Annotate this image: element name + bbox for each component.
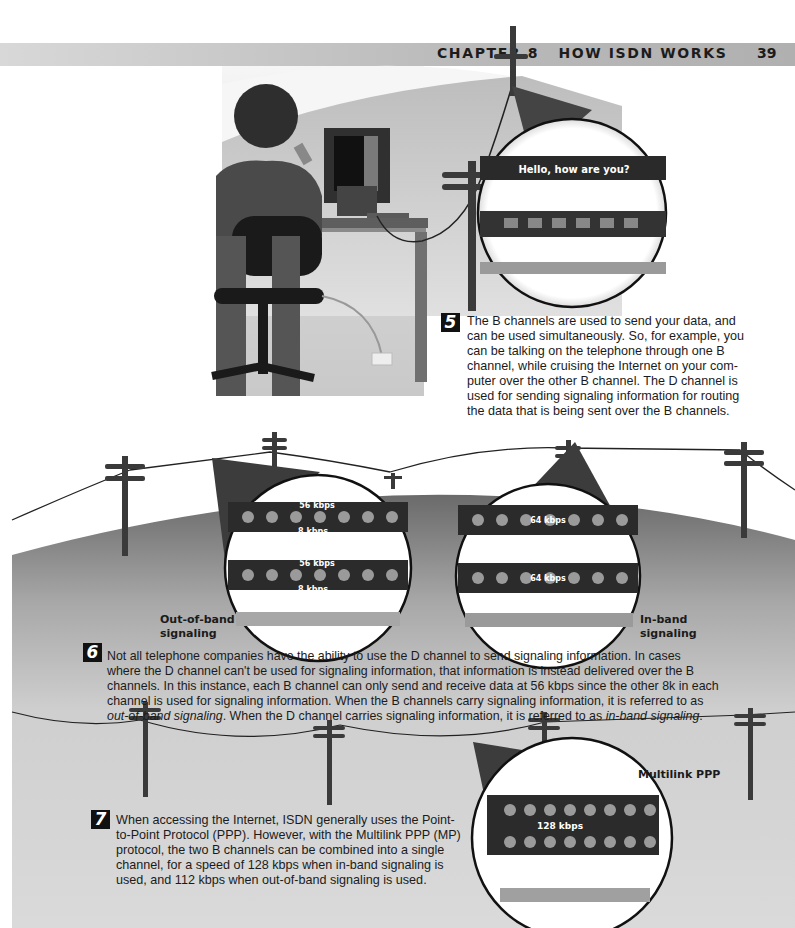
step-5-badge: 5 <box>441 313 460 332</box>
step-7-badge: 7 <box>91 810 110 829</box>
svg-text:8 kbps: 8 kbps <box>298 585 328 594</box>
page-number: 39 <box>757 45 776 61</box>
svg-text:64 kbps: 64 kbps <box>530 574 566 583</box>
step-7-text: When accessing the Internet, ISDN genera… <box>116 813 461 888</box>
desk-scene-illustration: Hello, how are you? <box>222 66 622 316</box>
svg-text:56 kbps: 56 kbps <box>299 559 335 568</box>
svg-text:64 kbps: 64 kbps <box>530 516 566 525</box>
chapter-title: CHAPTER 8 HOW ISDN WORKS <box>437 45 727 61</box>
step-6-text: Not all telephone companies have the abi… <box>107 649 719 724</box>
multilink-ppp-label: Multilink PPP <box>638 768 720 782</box>
svg-text:8 kbps: 8 kbps <box>298 527 328 536</box>
step-5-text: The B channels are used to send your dat… <box>467 314 744 419</box>
step-6-badge: 6 <box>83 643 102 662</box>
in-band-label: In-band signaling <box>640 613 697 641</box>
magnifier-caption: Hello, how are you? <box>518 164 629 175</box>
svg-text:56 kbps: 56 kbps <box>299 501 335 510</box>
out-of-band-label: Out-of-band signaling <box>160 613 235 641</box>
svg-text:128 kbps: 128 kbps <box>537 821 583 831</box>
